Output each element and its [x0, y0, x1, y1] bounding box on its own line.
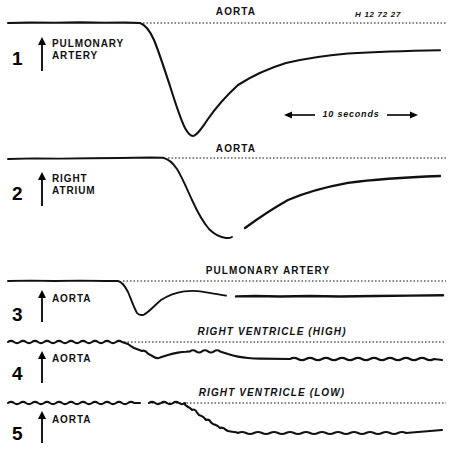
physiological-tracing-figure: AORTA 1 PULMONARY ARTERY H 12 72 27 10 s…: [0, 0, 449, 460]
panel-5-curve-a: [8, 402, 140, 404]
panel-5-axis-label: AORTA: [52, 414, 91, 426]
panel-5-curve-b: [149, 402, 442, 434]
panel-5-number: 5: [12, 424, 23, 443]
panel-5: RIGHT VENTRICLE (LOW) 5 AORTA: [0, 0, 449, 460]
arrow-up-icon: [36, 410, 48, 444]
panel-5-axis-label-line1: AORTA: [52, 414, 91, 425]
panel-5-title: RIGHT VENTRICLE (LOW): [199, 387, 345, 398]
